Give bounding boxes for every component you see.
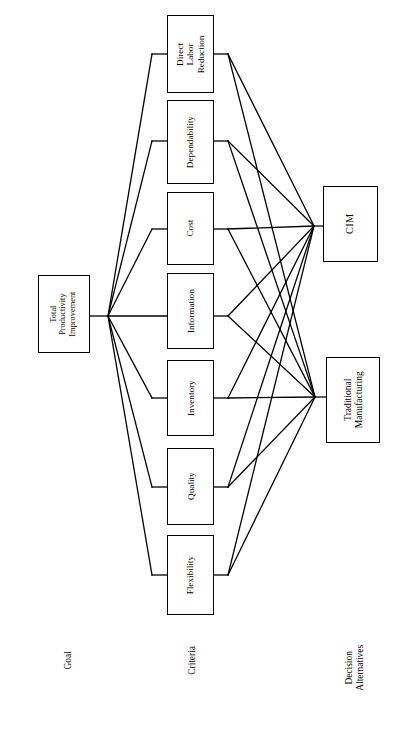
edge-inventory-to-traditional-manufacturing bbox=[228, 397, 315, 398]
criterion-node-inventory[interactable]: Inventory bbox=[167, 360, 214, 436]
goal-node-total-productivity-improvement[interactable]: Total Productivity Improvement bbox=[38, 275, 90, 353]
alternative-label-line1: Traditional bbox=[342, 371, 353, 428]
tier-label-goal-text: Goal bbox=[63, 651, 74, 669]
edge-goal-to-cost-diag bbox=[108, 229, 152, 316]
alternative-node-label: CIM bbox=[345, 214, 357, 235]
edge-direct-labor-reduction-to-traditional-manufacturing bbox=[228, 54, 315, 397]
criterion-node-label: Dependability bbox=[185, 116, 195, 168]
criterion-label-line2: Labor bbox=[185, 35, 195, 73]
edge-dependability-to-traditional-manufacturing bbox=[228, 141, 315, 397]
edge-cost-to-cim bbox=[228, 226, 314, 229]
edge-direct-labor-reduction-to-cim bbox=[228, 54, 314, 226]
edge-flexibility-to-cim bbox=[228, 226, 314, 575]
edge-cost-to-traditional-manufacturing bbox=[228, 229, 315, 397]
criterion-node-quality[interactable]: Quality bbox=[167, 448, 214, 525]
edge-goal-to-dependability-diag bbox=[108, 141, 152, 316]
criterion-label-line3: Reduction bbox=[196, 35, 206, 73]
alternative-node-cim[interactable]: CIM bbox=[323, 186, 378, 262]
criterion-node-label: Inventory bbox=[185, 380, 195, 416]
criterion-node-cost[interactable]: Cost bbox=[167, 192, 214, 265]
edge-dependability-to-cim bbox=[228, 141, 314, 226]
tier-label-decision-alternatives-text: Decision Alternatives bbox=[344, 645, 366, 691]
goal-node-label: Total Productivity Improvement bbox=[50, 291, 78, 336]
criterion-node-direct-labor-reduction[interactable]: Direct Labor Reduction bbox=[167, 15, 214, 93]
criterion-node-dependability[interactable]: Dependability bbox=[167, 100, 214, 184]
alternative-node-label: Traditional Manufacturing bbox=[342, 371, 363, 428]
goal-node-label-line2: Productivity bbox=[59, 291, 68, 336]
edge-goal-to-quality-diag bbox=[108, 316, 152, 487]
alternative-label-line2: Manufacturing bbox=[353, 371, 364, 428]
edge-quality-to-traditional-manufacturing bbox=[228, 397, 315, 487]
tier-label-decision-alternatives: Decision Alternatives bbox=[331, 630, 379, 706]
criterion-node-label: Direct Labor Reduction bbox=[175, 35, 206, 73]
criterion-node-label: Quality bbox=[185, 473, 195, 501]
tier-label-alt-line2: Alternatives bbox=[355, 645, 366, 691]
tier-label-criteria-text: Criteria bbox=[187, 646, 198, 675]
diagram-canvas: Total Productivity Improvement Direct La… bbox=[0, 0, 400, 730]
edge-inventory-to-cim bbox=[228, 226, 314, 398]
criterion-node-information[interactable]: Information bbox=[167, 273, 214, 349]
criterion-node-flexibility[interactable]: Flexibility bbox=[167, 535, 214, 615]
criterion-node-label: Cost bbox=[185, 220, 195, 237]
criterion-node-label: Information bbox=[185, 289, 195, 333]
tier-label-criteria: Criteria bbox=[168, 630, 216, 690]
criterion-node-label: Flexibility bbox=[185, 556, 195, 594]
edge-goal-to-inventory-diag bbox=[108, 316, 152, 398]
tier-label-alt-line1: Decision bbox=[344, 645, 355, 691]
edge-information-to-cim bbox=[228, 226, 314, 316]
tier-label-goal: Goal bbox=[44, 630, 92, 690]
edge-quality-to-cim bbox=[228, 226, 314, 487]
edge-flexibility-to-traditional-manufacturing bbox=[228, 397, 315, 575]
goal-node-label-line3: Improvement bbox=[69, 291, 78, 336]
edge-goal-to-flexibility-diag bbox=[108, 316, 152, 575]
alternative-node-traditional-manufacturing[interactable]: Traditional Manufacturing bbox=[326, 357, 380, 443]
criterion-label-line1: Direct bbox=[175, 35, 185, 73]
edge-goal-to-direct-labor-reduction-diag bbox=[108, 54, 152, 316]
edge-information-to-traditional-manufacturing bbox=[228, 316, 315, 397]
